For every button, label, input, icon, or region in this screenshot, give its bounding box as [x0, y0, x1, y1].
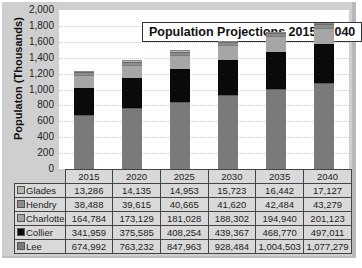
table-cell: 674,992 — [65, 240, 113, 254]
gridline — [59, 153, 349, 154]
y-tick-label: 1,600 — [16, 37, 54, 47]
table-row: Charlotte164,784173,129181,028188,302194… — [15, 212, 352, 226]
bar-2015 — [74, 71, 94, 169]
bar-segment-charlotte — [170, 55, 190, 69]
bar-segment-lee — [314, 83, 334, 169]
table-cell: 375,585 — [113, 226, 161, 240]
gridline — [59, 105, 349, 106]
bar-segment-lee — [218, 95, 238, 169]
y-tick-label: 400 — [16, 132, 54, 142]
bar-segment-charlotte — [218, 45, 238, 60]
table-cell: 43,279 — [304, 198, 352, 212]
y-tick-label: 1,400 — [16, 53, 54, 63]
table-cell: 928,484 — [208, 240, 256, 254]
table-cell: 1,077,279 — [304, 240, 352, 254]
legend-key-hendry: Hendry — [15, 198, 66, 212]
table-row: Lee674,992763,232847,963928,4841,004,503… — [15, 240, 352, 254]
bar-2020 — [122, 60, 142, 169]
legend-key-lee: Lee — [15, 240, 66, 254]
table-cell: 14,135 — [113, 184, 161, 198]
y-tick-label: 1,000 — [16, 85, 54, 95]
legend-swatch-icon — [17, 200, 25, 208]
bar-segment-charlotte — [266, 36, 286, 51]
gridline — [59, 90, 349, 91]
bar-segment-lee — [74, 115, 94, 169]
bar-segment-collier — [314, 44, 334, 84]
chart-panel: Populaton (Thousands) 2,0001,8001,6001,4… — [2, 2, 356, 258]
bar-segment-lee — [170, 102, 190, 169]
legend-key-glades: Glades — [15, 184, 66, 198]
bar-2025 — [170, 50, 190, 169]
legend-swatch-icon — [17, 228, 25, 236]
y-tick-label: 200 — [16, 148, 54, 158]
bar-segment-charlotte — [74, 75, 94, 88]
gridline — [59, 121, 349, 122]
table-header-cell: 2030 — [208, 170, 256, 184]
table-cell: 1,004,503 — [256, 240, 304, 254]
table-cell: 16,442 — [256, 184, 304, 198]
bar-segment-charlotte — [314, 28, 334, 44]
table-cell: 181,028 — [160, 212, 208, 226]
bar-2030 — [218, 41, 238, 169]
table-cell: 201,123 — [304, 212, 352, 226]
table-header-cell: 2040 — [304, 170, 352, 184]
gridline — [59, 74, 349, 75]
bar-segment-lee — [122, 108, 142, 169]
table-cell: 194,940 — [256, 212, 304, 226]
table-row: Collier341,959375,585408,254439,367468,7… — [15, 226, 352, 240]
table-cell: 39,615 — [113, 198, 161, 212]
table-header-cell: 2015 — [65, 170, 113, 184]
bar-2040 — [314, 23, 334, 169]
table-header-cell: 2020 — [113, 170, 161, 184]
table-header-cell: 2025 — [160, 170, 208, 184]
data-table: 201520202025203020352040Glades13,28614,1… — [14, 169, 352, 254]
table-row: Glades13,28614,13514,95315,72316,44217,1… — [15, 184, 352, 198]
table-cell: 15,723 — [208, 184, 256, 198]
bar-segment-charlotte — [122, 65, 142, 79]
table-cell: 40,665 — [160, 198, 208, 212]
bar-segment-lee — [266, 89, 286, 169]
y-tick-label: 2,000 — [16, 5, 54, 15]
legend-swatch-icon — [17, 242, 25, 250]
table-cell: 408,254 — [160, 226, 208, 240]
table-cell: 164,784 — [65, 212, 113, 226]
bar-segment-collier — [218, 60, 238, 95]
gridline — [59, 58, 349, 59]
bar-segment-collier — [266, 52, 286, 89]
bar-2035 — [266, 32, 286, 169]
y-tick-label: 800 — [16, 100, 54, 110]
table-cell: 847,963 — [160, 240, 208, 254]
plot-area: Population Projections 2015 - 2040 — [59, 10, 349, 169]
table-cell: 42,484 — [256, 198, 304, 212]
legend-swatch-icon — [17, 214, 25, 222]
bar-segment-collier — [170, 69, 190, 101]
bar-segment-collier — [122, 78, 142, 108]
legend-key-charlotte: Charlotte — [15, 212, 66, 226]
table-cell: 497,011 — [304, 226, 352, 240]
table-cell: 41,620 — [208, 198, 256, 212]
y-tick-label: 600 — [16, 116, 54, 126]
table-cell: 188,302 — [208, 212, 256, 226]
gridline — [59, 137, 349, 138]
table-header-cell: 2035 — [256, 170, 304, 184]
table-cell: 17,127 — [304, 184, 352, 198]
legend-swatch-icon — [17, 186, 25, 194]
table-cell: 468,770 — [256, 226, 304, 240]
table-cell: 38,488 — [65, 198, 113, 212]
table-cell: 13,286 — [65, 184, 113, 198]
table-cell: 341,959 — [65, 226, 113, 240]
y-tick-label: 1,800 — [16, 21, 54, 31]
table-row: Hendry38,48839,61540,66541,62042,48443,2… — [15, 198, 352, 212]
table-cell: 173,129 — [113, 212, 161, 226]
table-cell: 14,953 — [160, 184, 208, 198]
table-cell: 763,232 — [113, 240, 161, 254]
table-cell: 439,367 — [208, 226, 256, 240]
legend-key-collier: Collier — [15, 226, 66, 240]
y-tick-label: 1,200 — [16, 69, 54, 79]
bar-segment-collier — [74, 88, 94, 115]
